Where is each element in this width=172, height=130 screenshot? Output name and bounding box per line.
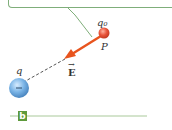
- dashed-connector: [22, 59, 65, 83]
- callout-pointer: [68, 8, 92, 37]
- test-charge-label: q₀: [97, 17, 107, 28]
- field-vector-label: → E: [68, 67, 76, 78]
- field-arrow-head: [64, 49, 76, 59]
- field-arrow-shaft: [72, 36, 101, 54]
- test-charge: [99, 28, 110, 39]
- panel-label: b: [18, 111, 27, 121]
- point-label: P: [101, 41, 108, 52]
- source-charge-label: q: [16, 65, 22, 76]
- vector-arrow-icon: →: [68, 60, 75, 69]
